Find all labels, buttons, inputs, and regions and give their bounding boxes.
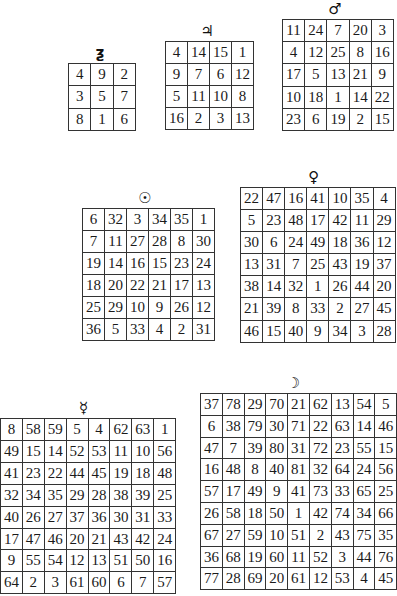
grid-row: 97612	[166, 64, 254, 86]
grid-cell: 19	[327, 108, 349, 130]
grid-cell: 73	[309, 481, 331, 503]
grid-cell: 20	[266, 568, 288, 590]
grid-cell: 63	[331, 415, 353, 437]
grid-cell: 8	[244, 459, 266, 481]
grid-cell: 80	[266, 437, 288, 459]
grid-cell: 44	[353, 546, 375, 568]
grid-cell: 15	[371, 108, 393, 130]
grid-row: 5234817421129	[241, 210, 396, 232]
grid-cell: 45	[375, 568, 397, 590]
grid-cell: 26	[329, 276, 351, 298]
grid-cell: 32	[105, 209, 127, 231]
grid-cell: 1	[327, 86, 349, 108]
grid-cell: 10	[283, 86, 305, 108]
grid-cell: 49	[244, 481, 266, 503]
grid-cell: 21	[241, 298, 263, 320]
grid-cell: 54	[44, 550, 66, 572]
grid-cell: 11	[110, 440, 132, 462]
grid-cell: 15	[149, 253, 171, 275]
mars-grid: 1124720341225816175132191018114222361921…	[282, 19, 394, 131]
grid-row: 3062449183612	[241, 232, 396, 254]
sun-symbol-icon: ☉	[82, 190, 208, 206]
grid-cell: 41	[307, 188, 329, 210]
grid-cell: 13	[327, 64, 349, 86]
grid-cell: 12	[305, 42, 327, 64]
grid-cell: 17	[283, 64, 305, 86]
grid-cell: 46	[375, 415, 397, 437]
grid-cell: 44	[351, 276, 373, 298]
grid-cell: 12	[309, 568, 331, 590]
grid-row: 23619215	[283, 108, 394, 130]
grid-cell: 60	[88, 572, 110, 594]
grid-row: 36681960115234476	[201, 546, 397, 568]
magic-square-mars: ♂ 11247203412258161751321910181142223619…	[282, 1, 388, 125]
grid-cell: 29	[244, 394, 266, 416]
grid-cell: 6	[210, 64, 232, 86]
grid-cell: 22	[309, 415, 331, 437]
grid-row: 63879307122631446	[201, 415, 397, 437]
grid-row: 511108	[166, 86, 254, 108]
grid-cell: 9	[91, 64, 113, 86]
grid-cell: 31	[288, 437, 310, 459]
grid-cell: 33	[331, 481, 353, 503]
grid-cell: 12	[193, 297, 215, 319]
grid-cell: 44	[66, 462, 88, 484]
grid-cell: 40	[285, 320, 307, 342]
grid-cell: 7	[327, 20, 349, 42]
grid-row: 11247203	[283, 20, 394, 42]
grid-cell: 47	[22, 528, 44, 550]
grid-cell: 12	[232, 64, 254, 86]
grid-cell: 27	[222, 524, 244, 546]
grid-row: 191416152324	[83, 253, 215, 275]
grid-cell: 55	[353, 437, 375, 459]
grid-row: 41225816	[283, 42, 394, 64]
grid-row: 47739803172235515	[201, 437, 397, 459]
grid-cell: 6	[110, 572, 132, 594]
grid-cell: 16	[154, 550, 176, 572]
grid-cell: 15	[375, 437, 397, 459]
grid-cell: 71	[288, 415, 310, 437]
grid-cell: 76	[375, 546, 397, 568]
grid-cell: 8	[285, 298, 307, 320]
grid-cell: 40	[266, 459, 288, 481]
grid-cell: 23	[263, 210, 285, 232]
grid-cell: 6	[201, 415, 223, 437]
grid-cell: 30	[266, 415, 288, 437]
grid-cell: 23	[22, 462, 44, 484]
grid-cell: 7	[113, 86, 135, 108]
grid-row: 1747462021434224	[1, 528, 176, 550]
venus-grid: 2247164110354523481742112930624491836121…	[240, 187, 396, 343]
grid-cell: 1	[232, 42, 254, 64]
grid-row: 414151	[166, 42, 254, 64]
grid-cell: 53	[88, 440, 110, 462]
grid-cell: 16	[201, 459, 223, 481]
grid-cell: 18	[329, 232, 351, 254]
grid-cell: 9	[266, 481, 288, 503]
grid-cell: 7	[188, 64, 210, 86]
grid-cell: 32	[285, 276, 307, 298]
grid-cell: 62	[110, 419, 132, 441]
grid-cell: 5	[66, 419, 88, 441]
grid-cell: 28	[149, 231, 171, 253]
grid-row: 182022211713	[83, 275, 215, 297]
grid-cell: 10	[210, 86, 232, 108]
grid-cell: 5	[305, 64, 327, 86]
moon-grid: 3778297021621354563879307122631446477398…	[200, 393, 397, 590]
grid-cell: 1	[307, 276, 329, 298]
grid-cell: 77	[201, 568, 223, 590]
grid-cell: 9	[166, 64, 188, 86]
grid-row: 16488408132642456	[201, 459, 397, 481]
grid-cell: 13	[193, 275, 215, 297]
grid-cell: 22	[127, 275, 149, 297]
grid-cell: 34	[353, 502, 375, 524]
grid-cell: 3	[371, 20, 393, 42]
grid-cell: 12	[66, 550, 88, 572]
grid-cell: 16	[166, 108, 188, 130]
magic-square-sun: ☉ 63233435171127288301914161523241820222…	[82, 190, 208, 334]
grid-cell: 60	[266, 546, 288, 568]
grid-cell: 26	[22, 506, 44, 528]
grid-cell: 2	[22, 572, 44, 594]
mars-symbol-icon: ♂	[282, 1, 388, 17]
grid-row: 3234352928383925	[1, 484, 176, 506]
grid-cell: 32	[1, 484, 23, 506]
